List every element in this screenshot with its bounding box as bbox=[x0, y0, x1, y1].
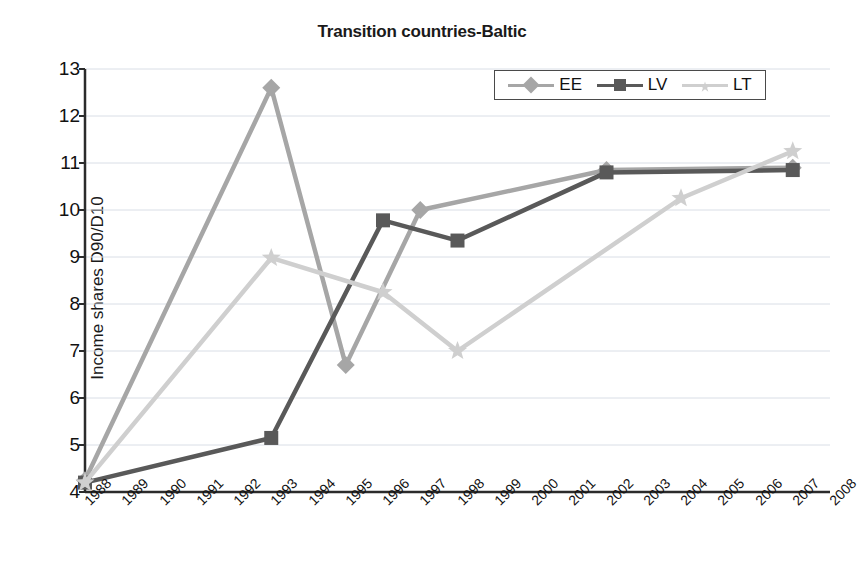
legend-swatch-EE bbox=[508, 79, 554, 91]
y-tick-12: 12 bbox=[59, 105, 80, 127]
plot-area bbox=[85, 69, 830, 492]
point-LT-2007 bbox=[783, 141, 802, 159]
point-LV-1996-square bbox=[376, 213, 390, 227]
y-tick-7: 7 bbox=[69, 340, 80, 362]
legend-marker-star-icon bbox=[699, 79, 711, 91]
series-line-EE bbox=[85, 88, 793, 480]
point-EE-1997 bbox=[411, 201, 429, 219]
legend-label-LV: LV bbox=[648, 75, 668, 95]
legend-item-EE[interactable]: EE bbox=[508, 75, 582, 95]
y-tick-5: 5 bbox=[69, 434, 80, 456]
series-line-LV bbox=[85, 170, 793, 483]
series-line-LT bbox=[85, 151, 793, 482]
plot-svg bbox=[85, 69, 830, 492]
legend-item-LT[interactable]: LT bbox=[682, 75, 752, 95]
legend-marker-diamond-icon bbox=[523, 77, 540, 94]
point-LV-1993 bbox=[264, 431, 278, 445]
legend-label-LT: LT bbox=[733, 75, 752, 95]
point-EE-1993 bbox=[262, 79, 280, 97]
legend-marker-square-icon bbox=[614, 79, 626, 91]
point-LV-1998 bbox=[451, 234, 465, 248]
point-LV-2002-square bbox=[600, 165, 614, 179]
legend-label-EE: EE bbox=[559, 75, 582, 95]
y-tick-11: 11 bbox=[60, 152, 80, 174]
chart-legend: EELVLT bbox=[494, 70, 766, 100]
point-LV-1996 bbox=[376, 213, 390, 227]
point-LV-2002 bbox=[600, 165, 614, 179]
point-EE-1993-diamond bbox=[262, 79, 280, 97]
legend-swatch-LT bbox=[682, 79, 728, 91]
y-tick-13: 13 bbox=[59, 58, 80, 80]
point-LV-2007 bbox=[786, 163, 800, 177]
y-tick-9: 9 bbox=[69, 246, 80, 268]
point-EE-1997-diamond bbox=[411, 201, 429, 219]
point-LT-2007-star bbox=[783, 141, 802, 159]
x-tick-2008: 2008 bbox=[826, 475, 859, 508]
chart-title: Transition countries-Baltic bbox=[0, 22, 844, 42]
point-LV-1998-square bbox=[451, 234, 465, 248]
legend-item-LV[interactable]: LV bbox=[597, 75, 668, 95]
x-axis-tick-labels: 1988198919901991199219931994199519961997… bbox=[85, 497, 830, 575]
point-LV-2007-square bbox=[786, 163, 800, 177]
point-EE-1995 bbox=[337, 356, 355, 374]
point-LV-1993-square bbox=[264, 431, 278, 445]
y-tick-8: 8 bbox=[69, 293, 80, 315]
legend-swatch-LV bbox=[597, 79, 643, 91]
y-tick-6: 6 bbox=[69, 387, 80, 409]
y-tick-10: 10 bbox=[59, 199, 80, 221]
y-axis-tick-labels: 45678910111213 bbox=[36, 69, 80, 492]
point-EE-1995-diamond bbox=[337, 356, 355, 374]
